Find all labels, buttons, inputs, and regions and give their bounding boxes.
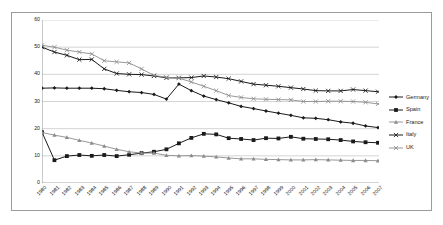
x-tick-label: 1987 xyxy=(123,185,135,197)
data-point-marker xyxy=(202,84,206,88)
x-tick-label: 1999 xyxy=(273,185,285,197)
legend-marker-icon xyxy=(388,105,404,115)
x-tick-label: 2002 xyxy=(310,185,322,197)
data-point-marker xyxy=(214,98,218,102)
y-tick-label: 0 xyxy=(37,180,40,185)
data-point-marker xyxy=(140,91,144,95)
data-point-marker xyxy=(77,86,81,90)
data-point-marker xyxy=(102,87,106,91)
data-point-marker xyxy=(139,67,143,71)
data-point-marker xyxy=(42,86,44,90)
data-point-marker xyxy=(189,136,193,140)
data-point-marker xyxy=(152,93,156,97)
legend-marker-icon xyxy=(388,117,404,127)
x-tick-label: 1985 xyxy=(98,185,110,197)
data-point-marker xyxy=(289,113,293,117)
data-point-marker xyxy=(264,136,268,140)
plot-area xyxy=(42,20,379,183)
data-point-marker xyxy=(102,67,106,71)
data-point-marker xyxy=(326,118,330,122)
x-tick-label: 1993 xyxy=(198,185,210,197)
legend-label: Italy xyxy=(406,132,416,138)
data-point-marker xyxy=(189,89,193,93)
x-tick-label: 1980 xyxy=(36,185,48,197)
x-tick-label: 2007 xyxy=(372,185,384,197)
data-point-marker xyxy=(214,132,218,136)
x-tick-label: 2004 xyxy=(335,185,347,197)
chart-frame: 0102030405060 19801981198219831984198519… xyxy=(11,12,432,211)
x-tick-label: 1988 xyxy=(136,185,148,197)
data-point-marker xyxy=(239,137,243,141)
data-point-marker xyxy=(239,104,243,108)
series-spain xyxy=(42,130,379,162)
data-point-marker xyxy=(277,137,281,141)
data-point-marker xyxy=(376,141,379,145)
x-tick-label: 2000 xyxy=(285,185,297,197)
data-point-marker xyxy=(394,108,398,112)
data-point-marker xyxy=(90,154,94,158)
y-tick-label: 60 xyxy=(34,17,40,22)
data-point-marker xyxy=(202,132,206,136)
data-point-marker xyxy=(53,158,57,162)
chart-legend: GermanySpainFranceItalyUK xyxy=(388,91,443,154)
data-point-marker xyxy=(351,121,355,125)
y-tick-label: 30 xyxy=(34,99,40,104)
series-germany xyxy=(42,82,379,129)
x-tick-label: 1982 xyxy=(61,185,73,197)
x-tick-label: 2001 xyxy=(298,185,310,197)
x-tick-label: 1984 xyxy=(86,185,98,197)
legend-label: Germany xyxy=(406,95,429,101)
y-tick-label: 20 xyxy=(34,126,40,131)
x-tick-label: 2006 xyxy=(360,185,372,197)
legend-label: France xyxy=(406,120,423,126)
data-point-marker xyxy=(264,109,268,113)
data-point-marker xyxy=(364,140,368,144)
data-point-marker xyxy=(115,88,119,92)
x-tick-label: 1997 xyxy=(248,185,260,197)
data-point-marker xyxy=(202,94,206,98)
data-point-marker xyxy=(102,153,106,157)
legend-marker-icon xyxy=(388,130,404,140)
data-point-marker xyxy=(314,137,318,141)
y-tick-label: 40 xyxy=(34,72,40,77)
series-italy xyxy=(42,45,379,94)
data-point-marker xyxy=(165,147,169,151)
x-tick-label: 1996 xyxy=(235,185,247,197)
data-point-marker xyxy=(394,95,398,99)
data-point-marker xyxy=(65,86,69,90)
legend-marker-icon xyxy=(388,143,404,153)
x-tick-label: 1989 xyxy=(148,185,160,197)
x-tick-label: 1998 xyxy=(260,185,272,197)
x-tick-label: 1981 xyxy=(49,185,61,197)
y-axis: 0102030405060 xyxy=(24,20,40,183)
data-point-marker xyxy=(301,137,305,141)
data-point-marker xyxy=(90,86,94,90)
x-axis: 1980198119821983198419851986198719881989… xyxy=(42,185,379,225)
data-point-marker xyxy=(326,137,330,141)
data-point-marker xyxy=(214,89,218,93)
legend-item-spain[interactable]: Spain xyxy=(388,104,443,117)
x-tick-label: 1994 xyxy=(210,185,222,197)
series-layer xyxy=(42,43,379,162)
data-point-marker xyxy=(364,124,368,128)
legend-item-uk[interactable]: UK xyxy=(388,141,443,154)
plot-svg xyxy=(42,20,379,183)
legend-item-france[interactable]: France xyxy=(388,116,443,129)
data-point-marker xyxy=(314,116,318,120)
data-point-marker xyxy=(227,136,231,140)
y-tick-label: 50 xyxy=(34,45,40,50)
data-point-marker xyxy=(65,154,69,158)
legend-item-germany[interactable]: Germany xyxy=(388,91,443,104)
y-tick-label: 10 xyxy=(34,153,40,158)
data-point-marker xyxy=(339,138,343,142)
data-point-marker xyxy=(289,135,293,139)
data-point-marker xyxy=(301,116,305,120)
data-point-marker xyxy=(277,111,281,115)
data-point-marker xyxy=(252,138,256,142)
data-point-marker xyxy=(252,107,256,111)
legend-item-italy[interactable]: Italy xyxy=(388,129,443,142)
x-tick-label: 1995 xyxy=(223,185,235,197)
x-tick-label: 2005 xyxy=(347,185,359,197)
data-point-marker xyxy=(127,90,131,94)
data-point-marker xyxy=(77,153,81,157)
